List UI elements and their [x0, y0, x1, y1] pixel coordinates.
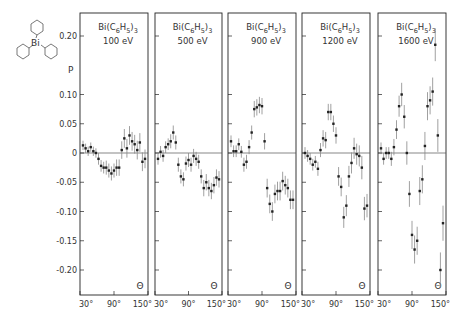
- data-point: [287, 187, 289, 189]
- data-point: [108, 169, 110, 171]
- x-tick-label: 150°: [281, 300, 300, 309]
- data-point: [408, 193, 410, 195]
- data-point: [157, 158, 159, 160]
- data-point: [269, 203, 271, 205]
- data-point: [110, 172, 112, 174]
- data-point: [340, 186, 342, 188]
- data-point: [159, 151, 161, 153]
- data-point: [235, 150, 237, 152]
- data-point: [105, 166, 107, 168]
- data-point: [215, 176, 217, 178]
- x-tick-label: 150°: [133, 300, 152, 309]
- panel-1600ev: 30°90°150°ΘBi(C6H5)31600 eV: [377, 13, 450, 309]
- data-point: [426, 105, 428, 107]
- data-point: [177, 164, 179, 166]
- data-point: [281, 180, 283, 182]
- data-point: [190, 164, 192, 166]
- x-tick-label: 30°: [227, 300, 241, 309]
- data-point: [350, 162, 352, 164]
- x-tick-label: 150°: [431, 300, 450, 309]
- data-point: [266, 187, 268, 189]
- y-tick-label: -0.05: [56, 178, 77, 187]
- data-point: [361, 166, 363, 168]
- data-point: [335, 134, 337, 136]
- panel-1200ev: 30°90°150°ΘBi(C6H5)31200 eV: [301, 13, 374, 309]
- data-point: [248, 146, 250, 148]
- data-point: [238, 143, 240, 145]
- data-point: [175, 141, 177, 143]
- y-tick-label: -0.15: [56, 237, 77, 246]
- panel-frame: [80, 13, 148, 295]
- data-point: [400, 93, 402, 95]
- y-tick-label: 0.05: [59, 120, 77, 129]
- data-point: [406, 152, 408, 154]
- data-point: [136, 149, 138, 151]
- y-axis-title: P: [68, 65, 74, 75]
- data-point: [210, 190, 212, 192]
- data-point: [192, 155, 194, 157]
- data-point: [439, 269, 441, 271]
- data-point: [306, 155, 308, 157]
- data-point: [263, 140, 265, 142]
- data-point: [121, 149, 123, 151]
- x-tick-label: 90°: [255, 300, 269, 309]
- data-point: [424, 145, 426, 147]
- data-point: [358, 155, 360, 157]
- data-point: [403, 116, 405, 118]
- data-point: [330, 111, 332, 113]
- data-point: [314, 161, 316, 163]
- panel-frame: [228, 13, 296, 295]
- data-point: [131, 140, 133, 142]
- compound-label: Bi(C6H5)3: [173, 22, 213, 35]
- molecule-center-label: Bi: [31, 38, 40, 48]
- data-point: [205, 181, 207, 183]
- data-point: [395, 128, 397, 130]
- data-point: [87, 150, 89, 152]
- data-point: [200, 175, 202, 177]
- data-point: [133, 143, 135, 145]
- data-point: [97, 158, 99, 160]
- polarization-figure: Bi 0.200.100.050-0.05-0.10-0.15-0.20 P 3…: [0, 0, 464, 312]
- compound-label: Bi(C6H5)3: [320, 22, 360, 35]
- data-point: [218, 178, 220, 180]
- energy-label: 500 eV: [178, 36, 208, 46]
- data-point: [393, 146, 395, 148]
- energy-label: 1600 eV: [398, 36, 434, 46]
- data-point: [317, 168, 319, 170]
- data-point: [203, 187, 205, 189]
- data-point: [385, 152, 387, 154]
- data-point: [353, 147, 355, 149]
- data-point: [232, 150, 234, 152]
- data-point: [126, 147, 128, 149]
- data-point: [398, 105, 400, 107]
- data-point: [185, 162, 187, 164]
- data-point: [240, 151, 242, 153]
- data-point: [213, 184, 215, 186]
- data-point: [324, 139, 326, 141]
- x-tick-label: 150°: [355, 300, 374, 309]
- x-tick-label: 90°: [329, 300, 343, 309]
- data-point: [90, 146, 92, 148]
- data-point: [289, 199, 291, 201]
- data-point: [182, 178, 184, 180]
- x-tick-label: 30°: [79, 300, 93, 309]
- x-tick-label: 30°: [154, 300, 168, 309]
- data-point: [355, 153, 357, 155]
- data-point: [413, 248, 415, 250]
- data-point: [261, 105, 263, 107]
- data-point: [274, 193, 276, 195]
- data-point: [271, 210, 273, 212]
- data-point: [366, 204, 368, 206]
- theta-axis-label: Θ: [284, 281, 291, 291]
- data-point: [380, 147, 382, 149]
- data-point: [345, 204, 347, 206]
- data-point: [139, 141, 141, 143]
- data-point: [144, 158, 146, 160]
- data-point: [292, 199, 294, 201]
- panel-900ev: 30°90°150°ΘBi(C6H5)3900 eV: [227, 13, 300, 309]
- data-point: [123, 137, 125, 139]
- data-point: [102, 166, 104, 168]
- x-tick-label: 30°: [301, 300, 315, 309]
- data-point: [431, 90, 433, 92]
- data-point: [312, 164, 314, 166]
